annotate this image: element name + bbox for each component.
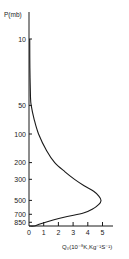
x-tick-label: 5 bbox=[98, 229, 108, 236]
y-axis-label: P(mb) bbox=[4, 11, 22, 18]
y-tick-label: 100 bbox=[2, 131, 26, 138]
x-tick-label: 1 bbox=[39, 229, 49, 236]
q0-profile-curve bbox=[29, 39, 101, 226]
y-tick-label: 300 bbox=[2, 176, 26, 183]
y-tick-label: 500 bbox=[2, 197, 26, 204]
y-tick-label: 200 bbox=[2, 159, 26, 166]
x-tick-label: 4 bbox=[83, 229, 93, 236]
y-tick-label: 50 bbox=[2, 102, 26, 109]
x-ticks bbox=[44, 222, 103, 226]
y-tick-label: 10 bbox=[2, 36, 26, 43]
x-tick-label: 0 bbox=[24, 229, 34, 236]
y-tick-label: 700 bbox=[2, 211, 26, 218]
x-tick-label: 3 bbox=[68, 229, 78, 236]
x-tick-label: 2 bbox=[53, 229, 63, 236]
y-tick-label: 850 bbox=[2, 219, 26, 226]
x-axis-label: Q₀(10⁻⁸K,Kg⁻¹S⁻¹) bbox=[62, 244, 112, 251]
